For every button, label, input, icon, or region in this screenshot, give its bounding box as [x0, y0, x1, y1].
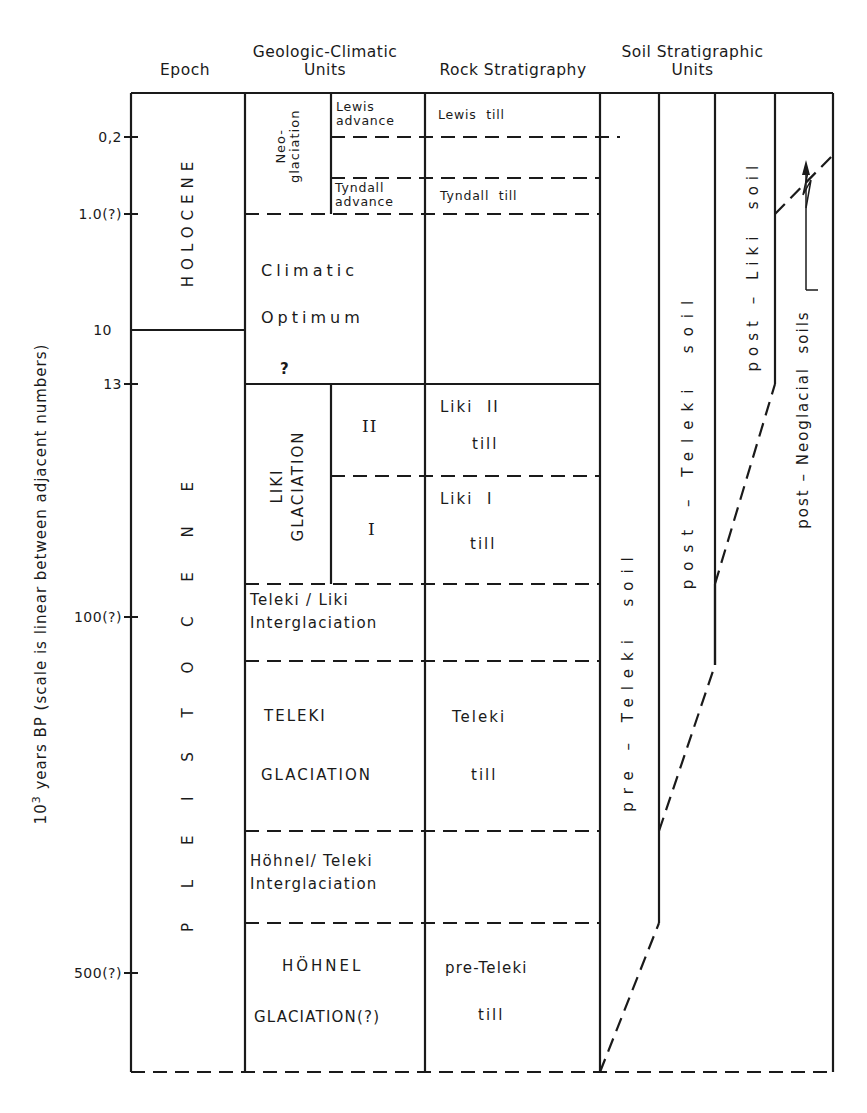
tick-1.0: 1.0(?) [42, 207, 122, 221]
soil-post-liki: post – Liki soil [746, 172, 761, 372]
header-soil-line1: Soil Stratigraphic [600, 44, 785, 62]
rock-liki-i-till-line1: Liki I [440, 492, 493, 507]
unit-teleki-glaciation-line1: TELEKI [264, 709, 327, 724]
unit-liki-i: I [368, 521, 376, 538]
tick-100: 100(?) [42, 610, 122, 624]
chart-frame [0, 0, 867, 1113]
epoch-holocene: HOLOCENE [181, 152, 196, 292]
tick-500: 500(?) [42, 966, 122, 980]
rock-teleki-till-line1: Teleki [452, 710, 506, 725]
soil-post-neoglacial: post – Neoglacial soils [796, 270, 811, 570]
rock-lewis-till: Lewis till [438, 108, 505, 122]
unit-question-mark: ? [280, 362, 290, 377]
header-soil-stratigraphic: Soil Stratigraphic Units [600, 44, 785, 80]
soil-post-teleki: post – Teleki soil [681, 291, 696, 591]
tick-13: 13 [42, 377, 122, 391]
unit-teleki-glaciation-line2: GLACIATION [261, 768, 372, 783]
unit-liki-glaciation: LIKI GLACIATION [267, 416, 309, 556]
epoch-pleistocene: P L E I S T O C E N E [181, 412, 196, 988]
rock-teleki-till-line2: till [471, 768, 497, 783]
unit-hohnel-glaciation-line2: GLACIATION(?) [254, 1010, 380, 1025]
unit-tyndall-advance: Tyndall advance [335, 181, 394, 209]
header-geologic-climatic-line2: Units [240, 62, 410, 80]
tick-10: 10 [32, 323, 112, 337]
header-rock-stratigraphy: Rock Stratigraphy [423, 62, 603, 80]
unit-hohnel-glaciation-line1: HÖHNEL [282, 959, 363, 974]
header-epoch: Epoch [140, 62, 230, 80]
header-geologic-climatic-line1: Geologic-Climatic [240, 44, 410, 62]
rock-liki-i-till-line2: till [470, 537, 496, 552]
rock-liki-ii-till-line1: Liki II [440, 400, 500, 415]
rock-pre-teleki-till-line1: pre-Teleki [445, 961, 528, 976]
header-soil-line2: Units [600, 62, 785, 80]
rock-liki-ii-till-line2: till [472, 437, 498, 452]
rock-pre-teleki-till-line2: till [478, 1008, 504, 1023]
unit-hohnel-teleki-interglaciation: Höhnel/ Teleki Interglaciation [250, 850, 378, 897]
unit-climatic-optimum-line1: Climatic [261, 263, 358, 279]
unit-climatic-optimum-line2: Optimum [261, 310, 364, 326]
rock-tyndall-till: Tyndall till [440, 189, 517, 203]
tick-0.2: 0,2 [42, 130, 122, 144]
unit-teleki-liki-interglaciation: Teleki / Liki Interglaciation [250, 589, 378, 636]
soil-pre-teleki: pre – Teleki soil [621, 531, 636, 831]
unit-liki-ii: II [362, 418, 377, 435]
y-axis-label: 103 years BP (scale is linear between ad… [31, 254, 49, 914]
header-geologic-climatic: Geologic-Climatic Units [240, 44, 410, 80]
unit-neoglaciation: Neo- glaciation [274, 106, 303, 186]
unit-lewis-advance: Lewis advance [336, 100, 395, 128]
